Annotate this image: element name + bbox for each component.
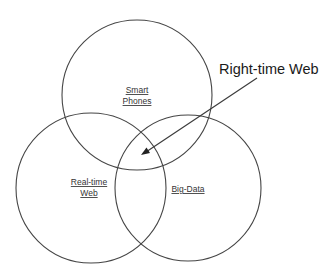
set-big-data: Big-Data bbox=[115, 115, 261, 261]
arrow-shaft bbox=[146, 78, 257, 152]
smart-phones-circle bbox=[62, 20, 212, 170]
callout-arrow bbox=[141, 78, 257, 155]
real-time-web-label-line1: Real-time bbox=[71, 177, 108, 187]
real-time-web-label-line2: Web bbox=[80, 188, 98, 198]
arrow-head-icon bbox=[141, 148, 150, 156]
venn-diagram: Smart Phones Real-time Web Big-Data Righ… bbox=[0, 0, 332, 276]
right-time-web-label: Right-time Web bbox=[219, 61, 319, 77]
big-data-label: Big-Data bbox=[171, 184, 204, 194]
set-real-time-web: Real-time Web bbox=[16, 113, 166, 263]
smart-phones-label-line1: Smart bbox=[126, 85, 149, 95]
smart-phones-label-line2: Phones bbox=[123, 96, 152, 106]
set-smart-phones: Smart Phones bbox=[62, 20, 212, 170]
